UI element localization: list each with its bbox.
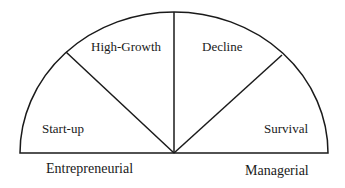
segment-label-survival: Survival xyxy=(264,121,308,137)
segment-label-decline: Decline xyxy=(202,39,242,55)
divider-startup-highgrowth xyxy=(66,52,174,153)
axis-label-managerial: Managerial xyxy=(245,163,309,179)
segment-label-highgrowth: High-Growth xyxy=(91,39,161,55)
segment-label-startup: Start-up xyxy=(42,121,84,137)
semicircle-diagram xyxy=(0,0,345,188)
axis-label-entrepreneurial: Entrepreneurial xyxy=(46,161,133,177)
divider-decline-survival xyxy=(174,55,282,153)
